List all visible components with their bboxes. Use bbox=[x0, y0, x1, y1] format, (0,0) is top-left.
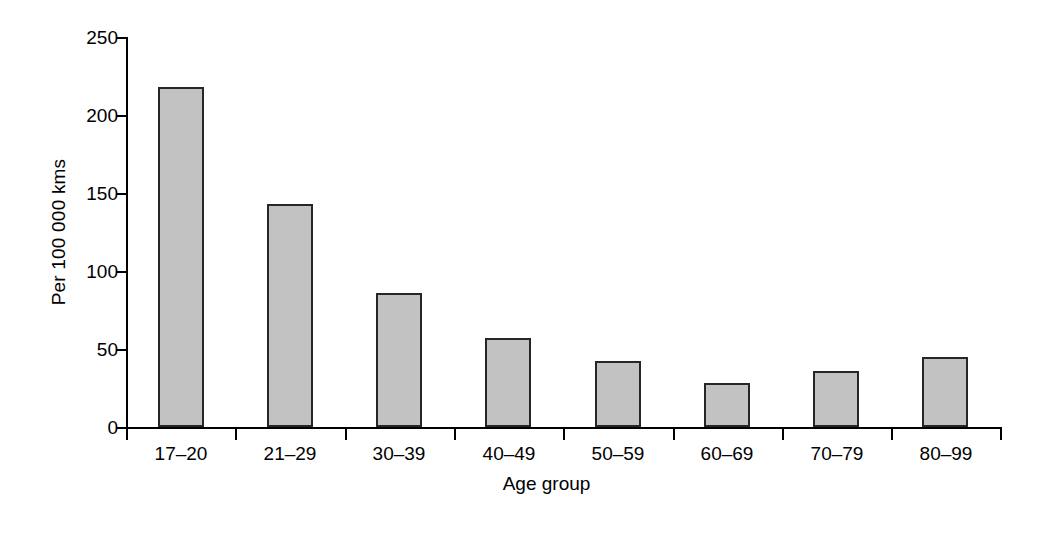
x-axis-title-wrap: Age group bbox=[0, 473, 1041, 495]
x-tick-mark bbox=[891, 429, 893, 440]
x-axis-tick-labels: 17–20 21–29 30–39 40–49 50–59 60–69 70–7… bbox=[0, 443, 1041, 471]
x-tick-mark bbox=[673, 429, 675, 440]
x-tick-label: 80–99 bbox=[886, 443, 1006, 465]
bar bbox=[158, 87, 204, 427]
bar bbox=[267, 204, 313, 427]
x-tick-mark bbox=[126, 429, 128, 440]
bar bbox=[922, 357, 968, 427]
x-tick-label: 40–49 bbox=[449, 443, 569, 465]
x-tick-label: 60–69 bbox=[667, 443, 787, 465]
x-tick-label: 17–20 bbox=[121, 443, 241, 465]
bar bbox=[704, 383, 750, 427]
x-tick-label: 70–79 bbox=[777, 443, 897, 465]
bar-chart: Per 100 000 kms 250 200 150 100 50 0 bbox=[0, 0, 1041, 533]
x-tick-label: 30–39 bbox=[339, 443, 459, 465]
x-axis-tick-marks bbox=[0, 429, 1041, 441]
bar bbox=[376, 293, 422, 427]
x-tick-mark bbox=[1000, 429, 1002, 440]
x-tick-mark bbox=[563, 429, 565, 440]
x-tick-mark bbox=[782, 429, 784, 440]
bar bbox=[485, 338, 531, 427]
x-tick-mark bbox=[235, 429, 237, 440]
x-tick-mark bbox=[454, 429, 456, 440]
x-tick-label: 21–29 bbox=[230, 443, 350, 465]
bar bbox=[813, 371, 859, 427]
bar bbox=[595, 361, 641, 427]
x-axis-title: Age group bbox=[503, 473, 591, 495]
x-tick-label: 50–59 bbox=[558, 443, 678, 465]
x-tick-mark bbox=[345, 429, 347, 440]
